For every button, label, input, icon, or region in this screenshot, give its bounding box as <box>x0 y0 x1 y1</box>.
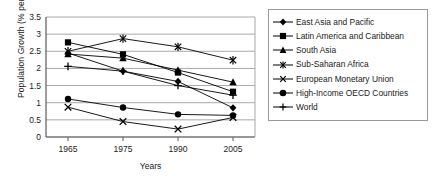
legend-item-european-monetary-union[interactable]: European Monetary Union <box>273 72 423 86</box>
x-tick-label: 1990 <box>169 144 188 154</box>
legend-marker-square-icon <box>273 30 293 42</box>
legend-item-world[interactable]: World <box>273 100 423 114</box>
chart-canvas: 00.511.522.533.51965197519902005Years <box>0 0 258 176</box>
x-tick-label: 2005 <box>224 144 243 154</box>
legend-label: European Monetary Union <box>296 75 394 83</box>
legend-label: Sub-Saharan Africa <box>296 60 369 68</box>
legend-marker-asterisk-icon <box>273 59 293 71</box>
legend-label: World <box>296 103 318 111</box>
series-latin-america-and-caribbean <box>65 39 236 95</box>
y-tick-label: 3.5 <box>29 12 41 22</box>
legend-marker-triangle-icon <box>273 44 293 56</box>
chart-figure: Population Growth (% per annum) 00.511.5… <box>0 0 434 176</box>
series-high-income-oecd-countries <box>65 96 236 119</box>
y-tick-label: 2 <box>36 63 41 73</box>
legend-label: High-Income OECD Countries <box>296 89 408 97</box>
legend-marker-circle-icon <box>273 87 293 99</box>
series-south-asia <box>64 50 236 85</box>
legend-marker-diamond-icon <box>273 16 293 28</box>
legend-item-latin-america-and-caribbean[interactable]: Latin America and Caribbean <box>273 29 423 43</box>
legend-marker-cross-icon <box>273 73 293 85</box>
plot-area: 00.511.522.533.51965197519902005Years <box>0 0 258 176</box>
x-tick-label: 1965 <box>59 144 78 154</box>
legend-item-east-asia-and-pacific[interactable]: East Asia and Pacific <box>273 15 423 29</box>
y-tick-label: 0.5 <box>29 115 41 125</box>
y-tick-label: 3 <box>36 29 41 39</box>
y-tick-label: 1.5 <box>29 81 41 91</box>
x-tick-label: 1975 <box>114 144 133 154</box>
legend-label: East Asia and Pacific <box>296 18 374 26</box>
y-tick-label: 2.5 <box>29 46 41 56</box>
chart-legend: East Asia and Pacific Latin America and … <box>268 9 428 121</box>
legend-item-high-income-oecd-countries[interactable]: High-Income OECD Countries <box>273 86 423 100</box>
legend-marker-plus-icon <box>273 101 293 113</box>
x-axis-title: Years <box>140 161 161 171</box>
legend-label: South Asia <box>296 46 336 54</box>
series-sub-saharan-africa <box>65 34 236 64</box>
y-tick-label: 0 <box>36 132 41 142</box>
legend-label: Latin America and Caribbean <box>296 32 404 40</box>
legend-item-sub-saharan-africa[interactable]: Sub-Saharan Africa <box>273 58 423 72</box>
series-european-monetary-union <box>65 104 237 133</box>
y-tick-label: 1 <box>36 98 41 108</box>
legend-item-south-asia[interactable]: South Asia <box>273 43 423 57</box>
